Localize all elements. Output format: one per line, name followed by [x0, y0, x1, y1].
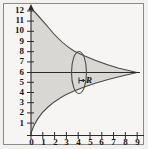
x-tick-label-4: 4 [73, 138, 84, 147]
shaded-region [31, 8, 137, 133]
x-tick-label-5: 5 [85, 138, 96, 147]
y-tick-label-3: 3 [7, 98, 24, 107]
x-tick-label-8: 8 [120, 138, 131, 147]
x-tick-label-6: 6 [96, 138, 107, 147]
y-tick-label-9: 9 [7, 37, 24, 46]
y-tick-label-5: 5 [7, 78, 24, 87]
y-tick-label-4: 4 [7, 88, 24, 97]
x-tick-label-3: 3 [61, 138, 72, 147]
y-tick-label-8: 8 [7, 47, 24, 56]
y-tick-label-7: 7 [7, 57, 24, 66]
figure-container: 12 12 11 10 9 8 7 6 5 4 3 2 1 0 1 2 3 4 … [0, 0, 148, 149]
y-tick-label-6: 6 [7, 68, 24, 77]
x-tick-label-1: 1 [38, 138, 49, 147]
x-tick-label-0: 0 [26, 138, 37, 147]
x-tick-label-9: 9 [132, 138, 143, 147]
y-tick-label-11: 11 [7, 16, 24, 25]
radius-label: R [86, 76, 92, 85]
y-axis-arrowhead [28, 4, 34, 10]
y-tick-label-12: 12 [7, 6, 24, 15]
y-tick-label-1: 1 [7, 119, 24, 128]
y-tick-label-2: 2 [7, 108, 24, 117]
x-tick-label-2: 2 [50, 138, 61, 147]
x-tick-label-7: 7 [108, 138, 119, 147]
y-tick-label-10: 10 [7, 26, 24, 35]
